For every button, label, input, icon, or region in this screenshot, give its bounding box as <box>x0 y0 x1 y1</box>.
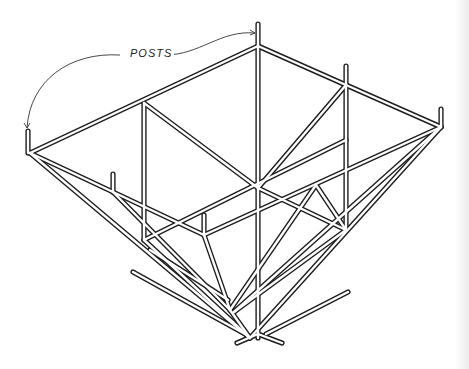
scan-edge-shade <box>455 0 469 369</box>
diagram-canvas: POSTS <box>0 0 469 369</box>
posts-label: POSTS <box>128 47 174 59</box>
frame-drawing <box>0 0 469 369</box>
